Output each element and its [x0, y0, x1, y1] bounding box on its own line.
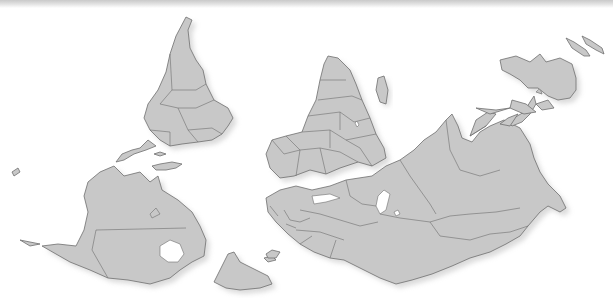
- africa: [266, 56, 390, 182]
- australia: [500, 38, 590, 104]
- iceland: [266, 250, 280, 258]
- greenland: [214, 252, 276, 294]
- south-america: [144, 17, 237, 150]
- world-map-south-up: [0, 0, 613, 298]
- north-america: [12, 166, 210, 288]
- madagascar: [376, 76, 391, 107]
